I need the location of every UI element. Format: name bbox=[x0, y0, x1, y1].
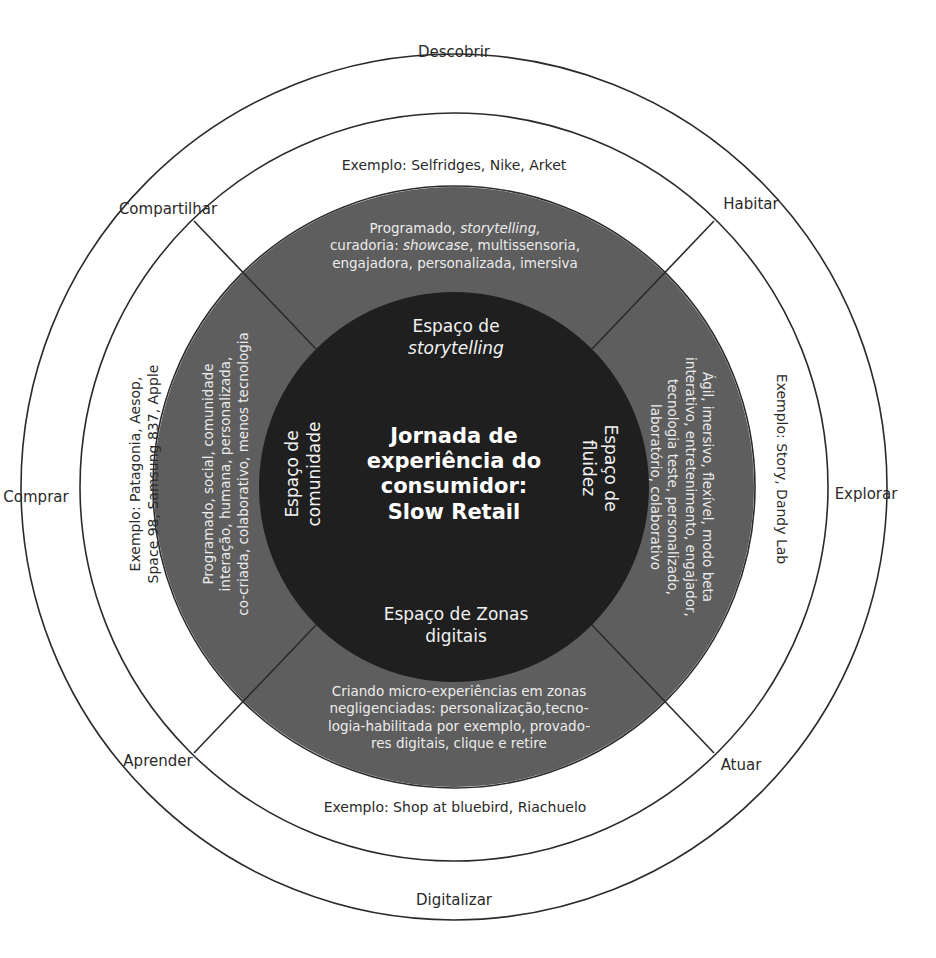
example-left-line1: Exemplo: Patagonia, Aesop, bbox=[127, 365, 145, 584]
title-line1: Jornada de bbox=[367, 424, 541, 449]
label-atuar: Atuar bbox=[721, 758, 762, 773]
description-right-line2: interativo, entretenimento, engajador, bbox=[681, 357, 698, 617]
space-fluidez-line1: Espaço de bbox=[600, 424, 622, 511]
space-comunidade-line1: Espaço de bbox=[281, 421, 303, 526]
label-explorar: Explorar bbox=[835, 487, 898, 502]
example-bottom: Exemplo: Shop at bluebird, Riachuelo bbox=[324, 799, 587, 817]
space-storytelling: Espaço de storytelling bbox=[408, 315, 504, 359]
text-segment: curadoria: bbox=[330, 237, 403, 253]
description-left: Programado, social, comunidade interação… bbox=[200, 332, 252, 616]
title-line4: Slow Retail bbox=[367, 499, 541, 524]
space-zonas-line2: digitais bbox=[384, 625, 529, 647]
example-left-line2: Space 98, Samsung 837, Apple bbox=[144, 365, 162, 584]
space-storytelling-line2: storytelling bbox=[408, 337, 504, 359]
space-fluidez: Espaço de fluidez bbox=[578, 424, 622, 511]
description-bottom-line1: Criando micro-experiências em zonas bbox=[328, 683, 590, 700]
description-right-line4: laboratório, colaborativo bbox=[646, 357, 663, 617]
label-aprender: Aprender bbox=[123, 754, 192, 769]
space-comunidade-line2: comunidade bbox=[303, 421, 325, 526]
title-line2: experiência do bbox=[367, 449, 541, 474]
description-left-line2: interação, humana, personalizada, bbox=[217, 332, 234, 616]
description-left-line3: co-criada, colaborativo, menos tecnologi… bbox=[235, 332, 252, 616]
example-right: Exemplo: Story, Dandy Lab bbox=[772, 374, 790, 564]
label-digitalizar: Digitalizar bbox=[416, 893, 492, 908]
description-right: Ágil, imersivo, flexível, modo beta inte… bbox=[646, 357, 715, 617]
description-right-line3: tecnologia teste, personalizado, bbox=[664, 357, 681, 617]
label-compartilhar: Compartilhar bbox=[119, 202, 217, 217]
description-top-line2: curadoria: showcase, multissensoria, bbox=[330, 237, 580, 254]
description-top-line3: engajadora, personalizada, imersiva bbox=[330, 255, 580, 272]
example-top: Exemplo: Selfridges, Nike, Arket bbox=[342, 157, 567, 175]
description-bottom-line3: logia-habilitada por exemplo, provado- bbox=[328, 718, 590, 735]
description-top: Programado, storytelling, curadoria: sho… bbox=[330, 220, 580, 272]
text-segment-italic: storytelling, bbox=[460, 220, 540, 236]
description-left-line1: Programado, social, comunidade bbox=[200, 332, 217, 616]
example-left: Exemplo: Patagonia, Aesop, Space 98, Sam… bbox=[127, 365, 162, 584]
space-zonas-digitais: Espaço de Zonas digitais bbox=[384, 603, 529, 647]
description-bottom-line2: negligenciadas: personalização,tecno- bbox=[328, 701, 590, 718]
text-segment-italic: showcase bbox=[403, 237, 469, 253]
text-segment: , multissensoria, bbox=[469, 237, 580, 253]
label-descobrir: Descobrir bbox=[418, 45, 490, 60]
label-comprar: Comprar bbox=[3, 490, 68, 505]
text-segment-italic: storytelling bbox=[408, 338, 504, 358]
space-storytelling-line1: Espaço de bbox=[408, 315, 504, 337]
description-bottom-line4: res digitais, clique e retire bbox=[328, 735, 590, 752]
text-segment: Programado, bbox=[369, 220, 460, 236]
description-right-line1: Ágil, imersivo, flexível, modo beta bbox=[698, 357, 715, 617]
description-bottom: Criando micro-experiências em zonas negl… bbox=[328, 683, 590, 752]
space-zonas-line1: Espaço de Zonas bbox=[384, 603, 529, 625]
space-fluidez-line2: fluidez bbox=[578, 424, 600, 511]
title-line3: consumidor: bbox=[367, 474, 541, 499]
space-comunidade: Espaço de comunidade bbox=[281, 421, 325, 526]
label-habitar: Habitar bbox=[723, 197, 778, 212]
diagram-title: Jornada de experiência do consumidor: Sl… bbox=[367, 424, 541, 525]
description-top-line1: Programado, storytelling, bbox=[330, 220, 580, 237]
